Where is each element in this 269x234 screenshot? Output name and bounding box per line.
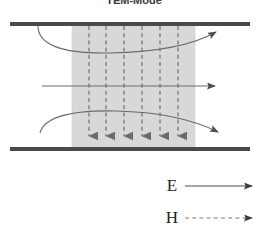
waveguide-field-diagram: TEM-Mode — [0, 0, 269, 234]
title-text: TEM-Mode — [106, 0, 162, 6]
legend-h-field: H — [166, 208, 252, 227]
top-conductor-plate — [10, 22, 250, 26]
legend-e-field: E — [167, 176, 252, 195]
legend-h-label: H — [166, 208, 178, 227]
bottom-conductor-plate — [10, 147, 250, 151]
figure-container: TEM-Mode — [0, 0, 269, 234]
legend-e-label: E — [167, 176, 177, 195]
figure-title: TEM-Mode — [106, 0, 162, 6]
